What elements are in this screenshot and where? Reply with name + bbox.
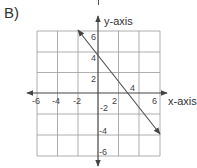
x-tick-p6: 6 [152,97,157,106]
x-tick-m2: -2 [73,97,81,106]
x-tick-m6: -6 [32,97,40,106]
y-tick-m6: -6 [99,148,107,157]
axes [27,16,167,166]
y-tick-m4: -4 [99,127,107,136]
x-axis-title: x-axis [168,96,197,107]
y-tick-p4: 4 [91,54,96,63]
coordinate-plane [0,0,197,168]
y-axis-title: y-axis [104,16,133,27]
x-tick-p4: 4 [130,84,135,93]
y-tick-m2: -2 [100,104,108,113]
x-tick-m4: -4 [52,97,60,106]
x-tick-p2: 2 [112,97,117,106]
y-tick-p2: 2 [91,75,96,84]
y-tick-p6: 6 [91,33,96,42]
